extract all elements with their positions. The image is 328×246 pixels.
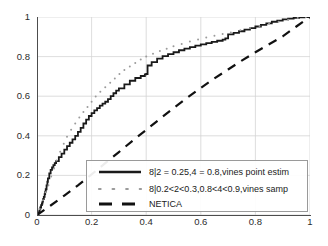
legend-entry-dashed: NETICA — [87, 196, 307, 212]
data-point — [91, 101, 93, 103]
legend-label-dotted: 8|0.2<2<0.3,0.8<4<0.9,vines samp — [149, 182, 288, 196]
data-point — [114, 77, 116, 79]
y-axis-line — [37, 17, 38, 216]
data-point — [268, 23, 270, 25]
y-tick-label: 0.2 — [0, 170, 30, 180]
legend-swatch-solid-line — [97, 164, 143, 180]
data-point — [152, 53, 154, 55]
data-point — [82, 111, 84, 113]
data-point — [63, 143, 65, 145]
legend-entry-dotted: 8|0.2<2<0.3,0.8<4<0.9,vines samp — [87, 181, 307, 197]
data-point — [205, 37, 207, 39]
legend: 8|2 = 0.25,4 = 0.8,vines point estim 8|0… — [86, 160, 308, 212]
data-point — [87, 106, 89, 108]
data-point — [45, 191, 47, 193]
figure: 00.20.40.60.81 00.20.40.60.81 8|2 = 0.25… — [0, 0, 328, 246]
data-point — [59, 151, 61, 153]
y-tick-label: 0.8 — [0, 52, 30, 62]
data-point — [74, 123, 76, 125]
legend-label-solid: 8|2 = 0.25,4 = 0.8,vines point estim — [149, 165, 289, 179]
legend-swatch-dashed-line — [97, 196, 143, 212]
data-point — [123, 69, 125, 71]
data-point — [66, 136, 68, 138]
data-point — [50, 175, 52, 177]
data-point — [53, 167, 55, 169]
data-point — [78, 117, 80, 119]
data-point — [278, 21, 280, 23]
y-tick-label: 0.6 — [0, 91, 30, 101]
legend-entry-solid: 8|2 = 0.25,4 = 0.8,vines point estim — [87, 164, 307, 180]
data-point — [56, 160, 58, 162]
data-point — [166, 48, 168, 50]
data-point — [140, 59, 142, 61]
x-tick-label: 0 — [22, 217, 52, 227]
x-tick-label: 0.6 — [186, 217, 216, 227]
data-point — [287, 19, 289, 21]
data-point — [159, 50, 161, 52]
data-point — [104, 86, 106, 88]
x-tick-label: 1 — [295, 217, 325, 227]
x-tick-label: 0.4 — [131, 217, 161, 227]
data-point — [189, 41, 191, 43]
data-point — [118, 73, 120, 75]
y-tick-label: 0.4 — [0, 131, 30, 141]
data-point — [297, 17, 299, 19]
data-point — [222, 33, 224, 35]
data-point — [109, 82, 111, 84]
data-point — [213, 35, 215, 37]
x-tick-label: 0.2 — [77, 217, 107, 227]
x-axis-line — [37, 215, 311, 216]
x-tick-label: 0.8 — [240, 217, 270, 227]
data-point — [39, 208, 41, 210]
data-point — [230, 31, 232, 33]
data-point — [129, 66, 131, 68]
data-point — [258, 25, 260, 27]
data-point — [70, 129, 72, 131]
data-point — [145, 56, 147, 58]
legend-swatch-dotted-line — [97, 181, 143, 197]
data-point — [42, 199, 44, 201]
data-point — [173, 45, 175, 47]
data-point — [239, 29, 241, 31]
data-point — [99, 91, 101, 93]
data-point — [249, 27, 251, 29]
data-point — [95, 96, 97, 98]
data-point — [47, 184, 49, 186]
data-point — [197, 39, 199, 41]
y-tick-label: 1 — [0, 12, 30, 22]
data-point — [181, 43, 183, 45]
data-point — [134, 62, 136, 64]
legend-label-netica: NETICA — [149, 197, 182, 211]
